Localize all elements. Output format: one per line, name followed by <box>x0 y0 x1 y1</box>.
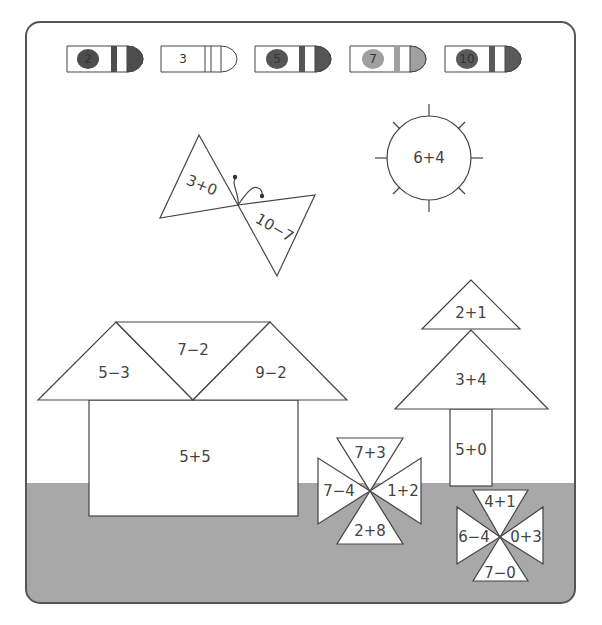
crayon-2[interactable]: 2 <box>67 46 143 72</box>
tree-middle-label: 3+4 <box>455 371 487 389</box>
petal-right-label: 0+3 <box>510 528 542 546</box>
crayon-number: 7 <box>369 52 377 66</box>
sun-label: 6+4 <box>413 149 445 167</box>
petal-top-label: 7+3 <box>354 444 386 462</box>
crayon-3[interactable]: 3 <box>161 46 237 72</box>
tree-top-label: 2+1 <box>455 304 487 322</box>
crayon-5[interactable]: 5 <box>255 46 331 72</box>
crayon-number: 5 <box>273 52 281 66</box>
petal-bottom-label: 7−0 <box>484 564 516 582</box>
petal-right-label: 1+2 <box>387 482 419 500</box>
worksheet-scene: 2 3 5 7 <box>0 0 602 625</box>
roof-left-label: 5−3 <box>98 364 130 382</box>
crayon-number: 10 <box>459 52 474 66</box>
roof-middle-label: 7−2 <box>177 341 209 359</box>
crayon-10[interactable]: 10 <box>445 46 521 72</box>
roof-right-label: 9−2 <box>255 364 287 382</box>
petal-left-label: 6−4 <box>458 528 490 546</box>
petal-bottom-label: 2+8 <box>354 522 386 540</box>
crayon-7[interactable]: 7 <box>350 46 426 72</box>
crayon-legend: 2 3 5 7 <box>67 46 521 72</box>
petal-top-label: 4+1 <box>484 493 516 511</box>
petal-left-label: 7−4 <box>323 482 355 500</box>
house-body-label: 5+5 <box>179 448 211 466</box>
crayon-number: 2 <box>84 52 92 66</box>
crayon-number: 3 <box>179 52 187 66</box>
tree-trunk-label: 5+0 <box>455 441 487 459</box>
